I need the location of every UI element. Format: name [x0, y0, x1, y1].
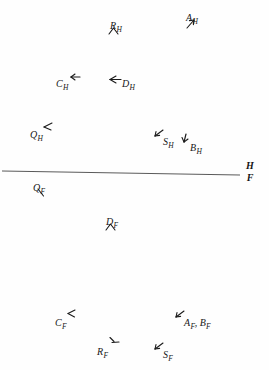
boundary-label-h: H	[240, 160, 260, 172]
marker-label-subscript: F	[190, 322, 195, 331]
marker-s-f: SF	[163, 345, 173, 361]
boundary-label-f: F	[240, 172, 260, 184]
marker-label: AF	[184, 317, 195, 328]
marker-label-base: D	[122, 78, 129, 89]
marker-label: CF	[55, 317, 66, 328]
vector-marker-figure: H F AHRHCHDHQHSHBHQFDFCFRFSFAF, BF	[0, 0, 269, 370]
marker-label: RF	[97, 346, 108, 357]
marker-label-base: C	[56, 78, 63, 89]
marker-label-base: Q	[33, 182, 40, 193]
marker-label: AH	[186, 12, 198, 23]
marker-label-subscript: H	[168, 141, 173, 150]
marker-c-f: CF	[55, 313, 66, 329]
marker-r-f: RF	[97, 342, 108, 358]
marker-label-subscript: F	[168, 354, 173, 363]
marker-label-base: B	[200, 317, 206, 328]
marker-label: QF	[33, 182, 45, 193]
marker-label-subscript: H	[196, 147, 201, 156]
marker-a-f-b-f: AF, BF	[184, 313, 210, 329]
marker-c-h: CH	[56, 74, 68, 90]
marker-label-subscript: F	[62, 322, 67, 331]
marker-q-f: QF	[33, 178, 45, 194]
boundary-hf-labels: H F	[240, 160, 260, 183]
boundary-line-stroke	[2, 171, 240, 175]
marker-label-subscript: F	[206, 322, 211, 331]
marker-label-subscript: F	[41, 187, 46, 196]
marker-label: QH	[30, 129, 43, 140]
marker-label: CH	[56, 78, 68, 89]
marker-label-subscript: F	[103, 351, 108, 360]
marker-label: SF	[163, 349, 173, 360]
marker-label-base: D	[106, 216, 113, 227]
marker-label: SH	[163, 136, 173, 147]
marker-label-subscript: H	[192, 17, 197, 26]
marker-label-subscript: H	[116, 25, 121, 34]
marker-label: DF	[106, 216, 118, 227]
marker-label: DH	[122, 78, 135, 89]
marker-d-h: DH	[122, 74, 135, 90]
marker-a-h: AH	[186, 8, 198, 24]
marker-d-f: DF	[106, 212, 118, 228]
marker-label: BH	[190, 142, 202, 153]
marker-label: RH	[110, 20, 122, 31]
marker-label-subscript: H	[130, 83, 135, 92]
marker-label: BF	[200, 317, 211, 328]
marker-label-subscript: H	[38, 134, 43, 143]
marker-label-base: Q	[30, 129, 37, 140]
marker-r-h: RH	[110, 16, 122, 32]
marker-label-base: C	[55, 317, 62, 328]
marker-s-h: SH	[163, 132, 173, 148]
marker-b-h: BH	[190, 138, 202, 154]
marker-label-subscript: H	[63, 83, 68, 92]
marker-q-h: QH	[30, 125, 43, 141]
marker-label-subscript: F	[114, 221, 119, 230]
